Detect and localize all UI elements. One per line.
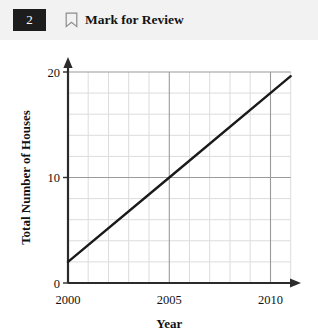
mark-for-review-label: Mark for Review	[85, 12, 184, 28]
bookmark-outline-icon	[65, 12, 78, 28]
x-tick-label-2005: 2005	[157, 293, 182, 307]
question-number-badge: 2	[13, 9, 46, 31]
y-tick-label-0: 0	[54, 277, 60, 291]
y-tick-label-10: 10	[48, 171, 61, 185]
question-header-bar: 2 Mark for Review	[0, 0, 318, 40]
mark-for-review-button[interactable]: Mark for Review	[65, 12, 184, 28]
y-axis	[63, 57, 72, 283]
line-chart-figure: 20 10 0 2000 2005 2010 Year Total Number…	[0, 40, 318, 332]
x-axis	[68, 278, 301, 287]
x-tick-label-2010: 2010	[258, 293, 283, 307]
y-axis-title: Total Number of Houses	[18, 110, 33, 245]
x-tick-label-2000: 2000	[56, 293, 81, 307]
x-axis-title: Year	[156, 316, 182, 331]
chart-svg: 20 10 0 2000 2005 2010 Year Total Number…	[0, 40, 318, 332]
y-tick-label-20: 20	[48, 66, 61, 80]
data-line-series-houses	[68, 76, 291, 262]
